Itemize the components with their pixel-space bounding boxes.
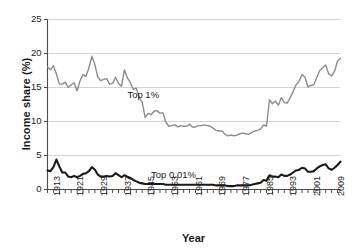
y-tick-label: 25 [16, 13, 42, 24]
x-tick-label: 2009 [336, 175, 346, 195]
income-share-chart: Income share (%) Year 051015202519131921… [0, 0, 355, 251]
series-annotation-top-1pct: Top 1% [127, 89, 159, 100]
x-tick-label: 1977 [241, 175, 251, 195]
y-tick-label: 15 [16, 81, 42, 92]
x-tick-label: 1969 [217, 175, 227, 195]
x-tick-label: 1929 [99, 175, 109, 195]
series-line-top-1pct [48, 56, 341, 136]
x-tick-label: 1921 [75, 175, 85, 195]
y-tick-label: 0 [16, 183, 42, 194]
chart-plot-area [0, 0, 355, 251]
x-tick-label: 1913 [52, 175, 62, 195]
x-tick-label: 1937 [123, 175, 133, 195]
series-annotation-top-001pct: Top 0.01% [151, 169, 196, 180]
axis-lines [48, 20, 341, 190]
x-tick-label: 2001 [312, 175, 322, 195]
y-tick-label: 10 [16, 115, 42, 126]
x-tick-label: 1985 [265, 175, 275, 195]
y-tick-label: 5 [16, 149, 42, 160]
x-axis-title: Year [47, 232, 340, 244]
x-tick-label: 1993 [288, 175, 298, 195]
y-tick-label: 20 [16, 47, 42, 58]
